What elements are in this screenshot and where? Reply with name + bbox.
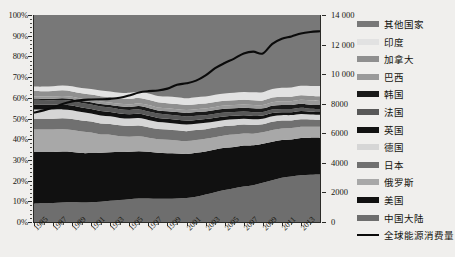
y-axis-right-tick-label: 6000 <box>331 128 348 138</box>
y-axis-right-tick <box>322 74 326 75</box>
y-axis-left-minor-tick <box>30 123 32 124</box>
legend-item-label: 印度 <box>384 35 404 49</box>
legend-item-label: 日本 <box>384 158 404 172</box>
y-axis-right-tick <box>322 104 326 105</box>
legend-swatch-icon <box>357 144 379 150</box>
y-axis-left-minor-tick <box>30 214 32 215</box>
y-axis-right-tick-label: 12 000 <box>331 40 354 50</box>
y-axis-left-minor-tick <box>30 94 32 95</box>
y-axis-left-tick <box>28 98 32 99</box>
y-axis-left-minor-tick <box>30 27 32 28</box>
x-axis-tick <box>206 223 207 226</box>
y-axis-left-minor-tick <box>30 61 32 62</box>
x-axis-tick <box>129 223 130 226</box>
legend-item[interactable]: 其他国家 <box>357 16 424 32</box>
legend-line-icon <box>357 234 379 237</box>
x-axis-tick <box>282 223 283 226</box>
x-axis-tick <box>91 223 92 226</box>
x-axis-tick <box>263 223 264 226</box>
legend-item-label: 英国 <box>384 123 404 137</box>
x-axis-tick <box>225 223 226 226</box>
y-axis-left-minor-tick <box>30 164 32 165</box>
y-axis-left-minor-tick <box>30 90 32 91</box>
y-axis-left-tick <box>28 139 32 140</box>
y-axis-left-minor-tick <box>30 52 32 53</box>
y-axis-left-tick-label: 20% <box>13 176 28 186</box>
y-axis-right-tick <box>322 192 326 193</box>
legend-swatch-icon <box>357 162 379 168</box>
y-axis-left-tick <box>28 160 32 161</box>
legend-item[interactable]: 日本 <box>357 157 404 173</box>
legend-item[interactable]: 中国大陆 <box>357 210 424 226</box>
plot-area <box>34 15 320 222</box>
chart-legend: 其他国家印度加拿大巴西韩国法国英国德国日本俄罗斯美国中国大陆全球能源消费量 <box>357 16 455 251</box>
y-axis-left-minor-tick <box>30 152 32 153</box>
legend-item[interactable]: 美国 <box>357 192 404 208</box>
y-axis-left-minor-tick <box>30 193 32 194</box>
x-axis-tick <box>53 223 54 226</box>
y-axis-left: 0%10%20%30%40%50%60%70%80%90%100% <box>0 15 32 222</box>
legend-swatch-icon <box>357 56 379 62</box>
y-axis-left-tick <box>28 56 32 57</box>
legend-item[interactable]: 巴西 <box>357 69 404 85</box>
legend-item[interactable]: 俄罗斯 <box>357 174 414 190</box>
legend-item[interactable]: 印度 <box>357 34 404 50</box>
y-axis-right-tick-label: 4000 <box>331 158 348 168</box>
legend-item[interactable]: 法国 <box>357 104 404 120</box>
y-axis-left-minor-tick <box>30 32 32 33</box>
area-series-group <box>34 15 320 222</box>
legend-item[interactable]: 德国 <box>357 139 404 155</box>
x-axis-minor-tick <box>101 223 102 225</box>
y-axis-left-minor-tick <box>30 205 32 206</box>
y-axis-left-minor-tick <box>30 48 32 49</box>
legend-swatch-icon <box>357 127 379 133</box>
x-axis-minor-tick <box>272 223 273 225</box>
x-axis-minor-tick <box>253 223 254 225</box>
legend-item[interactable]: 英国 <box>357 122 404 138</box>
y-axis-left-minor-tick <box>30 156 32 157</box>
y-axis-left-tick <box>28 77 32 78</box>
y-axis-left-minor-tick <box>30 143 32 144</box>
y-axis-left-minor-tick <box>30 110 32 111</box>
y-axis-left-minor-tick <box>30 106 32 107</box>
y-axis-right-tick <box>322 45 326 46</box>
y-axis-left-minor-tick <box>30 147 32 148</box>
y-axis-right-tick <box>322 15 326 16</box>
y-axis-right-tick-label: 14 000 <box>331 10 354 20</box>
x-axis-tick <box>301 223 302 226</box>
legend-item-label: 加拿大 <box>384 52 414 66</box>
x-axis-minor-tick <box>215 223 216 225</box>
y-axis-right-tick-label: 10 000 <box>331 69 354 79</box>
y-axis-left-minor-tick <box>30 176 32 177</box>
x-axis-minor-tick <box>158 223 159 225</box>
legend-item-label: 美国 <box>384 193 404 207</box>
y-axis-left-minor-tick <box>30 19 32 20</box>
y-axis-left-tick <box>28 36 32 37</box>
x-axis-minor-tick <box>120 223 121 225</box>
x-axis-minor-tick <box>310 223 311 225</box>
legend-item-label: 巴西 <box>384 70 404 84</box>
y-axis-left-tick <box>28 119 32 120</box>
y-axis-left-tick <box>28 181 32 182</box>
legend-item-label: 韩国 <box>384 87 404 101</box>
y-axis-left-minor-tick <box>30 73 32 74</box>
x-axis-minor-tick <box>82 223 83 225</box>
legend-item[interactable]: 韩国 <box>357 86 404 102</box>
legend-item-label: 俄罗斯 <box>384 175 414 189</box>
legend-item-label: 全球能源消费量 <box>384 228 454 242</box>
chart-container: 0%10%20%30%40%50%60%70%80%90%100% 020004… <box>0 0 455 257</box>
y-axis-right: 0200040006000800010 00012 00014 000 <box>322 15 356 222</box>
x-axis-tick <box>148 223 149 226</box>
x-axis-labels: 1985198719891991199319951997199920012003… <box>34 223 320 257</box>
legend-item-label: 法国 <box>384 105 404 119</box>
y-axis-right-tick <box>322 222 326 223</box>
y-axis-left-tick <box>28 201 32 202</box>
legend-swatch-icon <box>357 91 379 97</box>
x-axis-minor-tick <box>196 223 197 225</box>
legend-item[interactable]: 全球能源消费量 <box>357 227 454 243</box>
legend-item[interactable]: 加拿大 <box>357 51 414 67</box>
y-axis-left-minor-tick <box>30 185 32 186</box>
y-axis-left-minor-tick <box>30 114 32 115</box>
legend-swatch-icon <box>357 21 379 27</box>
y-axis-left-minor-tick <box>30 65 32 66</box>
